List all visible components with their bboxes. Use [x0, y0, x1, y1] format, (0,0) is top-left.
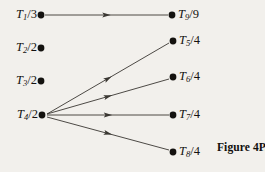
- node-label-T9: T9/9: [178, 8, 199, 22]
- edge-arrowhead-icon: [103, 130, 112, 137]
- node-denominator: 4: [194, 144, 200, 158]
- edge-T4-T6: [47, 79, 169, 114]
- node-label-T8: T8/4: [179, 145, 200, 159]
- node-label-T6: T6/4: [179, 70, 200, 84]
- node-denominator: 2: [31, 40, 37, 54]
- node-dot-T2: [38, 45, 45, 52]
- edge-T1-T9: [45, 13, 168, 18]
- node-denominator: 9: [193, 7, 199, 21]
- node-dot-T5: [170, 38, 177, 45]
- node-symbol: T: [178, 7, 185, 21]
- node-dot-T1: [38, 12, 45, 19]
- node-symbol: T: [17, 107, 24, 121]
- node-denominator: 2: [31, 73, 37, 87]
- node-dot-T6: [170, 74, 177, 81]
- node-symbol: T: [16, 40, 23, 54]
- node-symbol: T: [179, 107, 186, 121]
- node-label-T5: T5/4: [179, 34, 200, 48]
- node-dot-T7: [170, 112, 177, 119]
- node-dot-T8: [170, 149, 177, 156]
- edge-T4-T8: [47, 117, 169, 150]
- node-dot-T9: [169, 12, 176, 19]
- node-label-T3: T3/2: [16, 74, 37, 88]
- node-denominator: 2: [32, 107, 38, 121]
- node-symbol: T: [179, 144, 186, 158]
- edge-arrowhead-icon: [103, 74, 113, 82]
- edge-T4-T7: [47, 113, 169, 118]
- node-symbol: T: [179, 69, 186, 83]
- edge-T4-T5: [47, 43, 169, 114]
- node-denominator: 4: [194, 69, 200, 83]
- edge-arrowhead-icon: [103, 93, 112, 100]
- node-dot-T4: [39, 112, 46, 119]
- node-denominator: 4: [194, 107, 200, 121]
- node-label-T1: T1/3: [16, 8, 37, 22]
- node-label-T4: T4/2: [17, 108, 38, 122]
- node-symbol: T: [16, 7, 23, 21]
- node-symbol: T: [179, 33, 186, 47]
- node-symbol: T: [16, 73, 23, 87]
- node-label-T2: T2/2: [16, 41, 37, 55]
- node-denominator: 3: [31, 7, 37, 21]
- node-denominator: 4: [194, 33, 200, 47]
- node-label-T7: T7/4: [179, 108, 200, 122]
- figure-caption: Figure 4P.1: [217, 141, 265, 153]
- figure-container: T1/3T2/2T3/2T4/2T9/9T5/4T6/4T7/4T8/4 Fig…: [0, 0, 265, 172]
- node-dot-T3: [38, 78, 45, 85]
